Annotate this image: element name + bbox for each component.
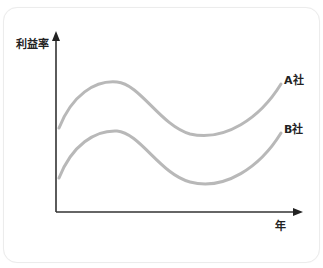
y-axis-label: 利益率 bbox=[16, 37, 49, 51]
series-line-a bbox=[59, 82, 281, 136]
profit-rate-chart: 利益率 年 A社 B社 bbox=[0, 0, 323, 268]
x-axis-label: 年 bbox=[275, 219, 286, 233]
series-line-b bbox=[59, 131, 281, 184]
series-label-a: A社 bbox=[284, 73, 304, 87]
series-label-b: B社 bbox=[284, 122, 303, 136]
